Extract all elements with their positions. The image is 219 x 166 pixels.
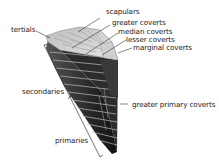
label-scapulars: scapulars <box>106 8 139 15</box>
label-greater-primary-coverts: greater primary coverts <box>132 101 215 108</box>
label-greater-coverts: greater coverts <box>112 19 166 26</box>
label-marginal-coverts: marginal coverts <box>133 44 192 51</box>
label-tertials: tertials <box>11 26 35 33</box>
label-secondaries: secondaries <box>22 88 64 95</box>
wing-diagram: scapulars greater coverts median coverts… <box>0 0 219 166</box>
label-primaries: primaries <box>55 137 88 144</box>
